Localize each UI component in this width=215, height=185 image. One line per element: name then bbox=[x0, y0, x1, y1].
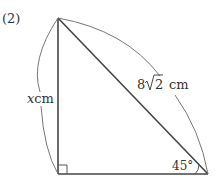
hypotenuse-coefficient: 8 bbox=[137, 77, 145, 92]
hypotenuse-unit: cm bbox=[169, 77, 189, 92]
angle-label: 45° bbox=[172, 159, 193, 173]
hypotenuse-radicand: 2 bbox=[155, 77, 163, 92]
hypotenuse bbox=[58, 18, 208, 174]
problem-number: (2) bbox=[2, 11, 20, 26]
right-angle-marker bbox=[58, 165, 67, 174]
triangle-diagram: (2) xcm 8 2 cm 45° bbox=[0, 0, 215, 185]
vertical-side-label: xcm bbox=[27, 91, 54, 106]
hypotenuse-label: 8 2 cm bbox=[137, 75, 189, 92]
angle-arc bbox=[195, 165, 199, 174]
left-dimension-arc-lower bbox=[41, 106, 58, 174]
unit-cm: cm bbox=[34, 91, 54, 106]
left-dimension-arc-upper bbox=[37, 18, 58, 92]
hypotenuse-dimension-arc-upper bbox=[58, 18, 160, 76]
